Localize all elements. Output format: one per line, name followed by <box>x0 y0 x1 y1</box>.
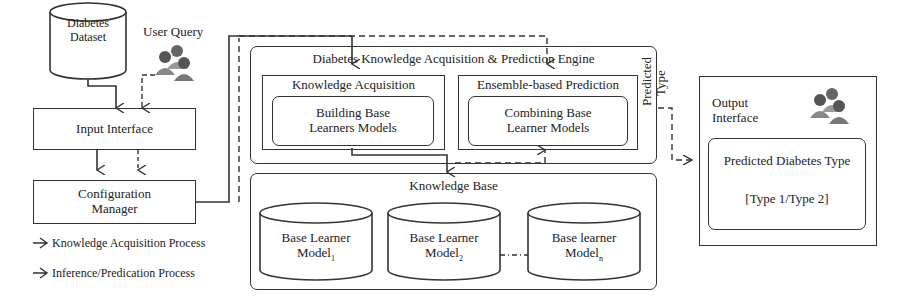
predicted-diabetes-box: Predicted Diabetes Type [Type 1/Type 2] <box>708 138 866 230</box>
config-manager-label: Configuration Manager <box>34 186 195 216</box>
model-2-line2: Model2 <box>388 245 500 266</box>
legend-dashed-label: Inference/Predication Process <box>52 266 195 281</box>
input-interface-box: Input Interface <box>33 108 196 150</box>
output-line1: Output <box>712 95 758 110</box>
model-1-label: Base Learner Model1 <box>260 230 372 266</box>
knowledge-base-title: Knowledge Base <box>251 178 656 193</box>
model-1-line1: Base Learner <box>260 230 372 245</box>
model-1-line2: Model1 <box>260 245 372 266</box>
predicted-type-label: Predicted Type <box>640 57 668 106</box>
model-1-word: Model <box>297 245 331 260</box>
knowledge-acquisition-title: Knowledge Acquisition <box>263 77 444 92</box>
engine-title: Diabetes Knowledge Acquisition & Predict… <box>251 51 656 66</box>
dataset-line1: Diabetes <box>50 16 126 30</box>
legend-solid-arrow-icon <box>33 238 47 248</box>
combining-line2: Learner Models <box>469 120 627 135</box>
ensemble-prediction-title: Ensemble-based Prediction <box>459 77 637 92</box>
predicted-line1: Predicted <box>640 57 654 106</box>
model-2-line1: Base Learner <box>388 230 500 245</box>
legend-dashed-arrow-icon <box>33 268 47 278</box>
config-manager-box: Configuration Manager <box>33 180 196 224</box>
combining-models-label: Combining Base Learner Models <box>469 105 627 135</box>
dataset-label: Diabetes Dataset <box>50 16 126 44</box>
combining-models-box: Combining Base Learner Models <box>468 96 628 146</box>
model-2-label: Base Learner Model2 <box>388 230 500 266</box>
building-models-box: Building Base Learners Models <box>272 96 434 146</box>
model-n-sub: n <box>599 254 603 263</box>
predicted-diabetes-value: [Type 1/Type 2] <box>709 191 865 206</box>
legend-solid-label: Knowledge Acquisition Process <box>52 236 205 251</box>
model-2-sub: 2 <box>459 254 463 263</box>
config-line2: Manager <box>34 201 195 216</box>
user-group-icon <box>155 45 194 81</box>
combining-line1: Combining Base <box>469 105 627 120</box>
building-line2: Learners Models <box>273 120 433 135</box>
model-2-word: Model <box>425 245 459 260</box>
building-line1: Building Base <box>273 105 433 120</box>
model-n-word: Model <box>565 245 599 260</box>
predicted-diabetes-title: Predicted Diabetes Type <box>709 153 865 168</box>
output-interface-title: Output Interface <box>712 95 758 125</box>
model-1-sub: 1 <box>331 254 335 263</box>
output-line2: Interface <box>712 110 758 125</box>
model-n-line2: Modeln <box>528 245 640 266</box>
building-models-label: Building Base Learners Models <box>273 105 433 135</box>
predicted-line2: Type <box>654 57 668 106</box>
model-n-label: Base learner Modeln <box>528 230 640 266</box>
model-n-line1: Base learner <box>528 230 640 245</box>
input-interface-label: Input Interface <box>34 121 195 136</box>
dataset-line2: Dataset <box>50 30 126 44</box>
config-line1: Configuration <box>34 186 195 201</box>
user-query-label: User Query <box>143 24 203 39</box>
